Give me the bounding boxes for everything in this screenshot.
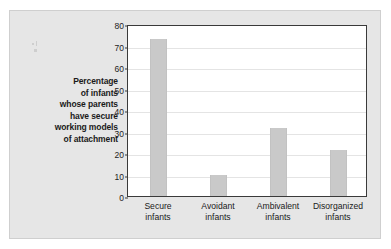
y-tick-label: 10 bbox=[115, 172, 124, 182]
x-category-label: Ambivalentinfants bbox=[257, 201, 300, 223]
y-tick-mark bbox=[125, 26, 128, 27]
scan-speck bbox=[34, 49, 37, 52]
y-tick-label: 30 bbox=[115, 129, 124, 139]
y-tick-label: 80 bbox=[115, 21, 124, 31]
scan-speck bbox=[36, 41, 37, 46]
y-tick-mark bbox=[125, 90, 128, 91]
x-category-label-line: infants bbox=[313, 212, 363, 223]
y-tick-mark bbox=[125, 112, 128, 113]
x-category-label-line: infants bbox=[144, 212, 171, 223]
y-tick-label: 0 bbox=[119, 193, 124, 203]
bar bbox=[150, 39, 167, 196]
x-category-label-line: infants bbox=[257, 212, 300, 223]
scan-speck bbox=[32, 43, 34, 45]
x-category-label-line: Disorganized bbox=[313, 201, 363, 212]
y-axis-label-line: have secure bbox=[18, 111, 118, 123]
y-axis-label-line: of infants bbox=[18, 88, 118, 100]
x-category-label-line: Avoidant bbox=[201, 201, 234, 212]
y-tick-label: 20 bbox=[115, 150, 124, 160]
y-axis-label-line: of attachment bbox=[18, 134, 118, 146]
y-tick-mark bbox=[125, 198, 128, 199]
y-axis-label-line: Percentage bbox=[18, 76, 118, 88]
bar bbox=[210, 175, 227, 196]
bar bbox=[330, 150, 347, 196]
y-tick-mark bbox=[125, 176, 128, 177]
bar bbox=[270, 128, 287, 196]
y-axis-label-line: whose parents bbox=[18, 99, 118, 111]
y-tick-mark bbox=[125, 155, 128, 156]
y-axis-label: Percentageof infantswhose parentshave se… bbox=[18, 76, 118, 146]
x-category-label-line: Secure bbox=[144, 201, 171, 212]
y-axis-label-line: working models bbox=[18, 122, 118, 134]
y-tick-label: 60 bbox=[115, 64, 124, 74]
y-tick-mark bbox=[125, 69, 128, 70]
y-tick-label: 40 bbox=[115, 107, 124, 117]
y-tick-mark bbox=[125, 133, 128, 134]
plot-area: 01020304050607080 SecureinfantsAvoidanti… bbox=[127, 25, 367, 197]
y-tick-label: 50 bbox=[115, 86, 124, 96]
x-category-label-line: infants bbox=[201, 212, 234, 223]
x-category-label-line: Ambivalent bbox=[257, 201, 300, 212]
x-category-label: Secureinfants bbox=[144, 201, 171, 223]
x-category-label: Avoidantinfants bbox=[201, 201, 234, 223]
chart-figure: Percentageof infantswhose parentshave se… bbox=[0, 0, 391, 249]
x-category-label: Disorganizedinfants bbox=[313, 201, 363, 223]
y-tick-label: 70 bbox=[115, 43, 124, 53]
y-tick-mark bbox=[125, 47, 128, 48]
